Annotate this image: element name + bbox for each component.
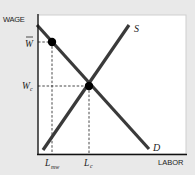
labor-market-chart: WAGE LABOR S D W W c L mw L c [0,0,195,175]
l-mw-label: L [44,158,50,168]
w-bar-label: W [25,39,34,49]
w-c-subscript: c [30,86,33,92]
l-c-subscript: c [90,163,93,169]
equilibrium-point [85,82,93,90]
demand-label: D [152,142,161,153]
l-c-label: L [83,158,89,168]
supply-label: S [134,23,139,34]
l-mw-subscript: mw [51,164,59,170]
y-axis-label: WAGE [3,15,25,24]
minimum-wage-point [48,38,56,46]
plot-area [38,15,186,154]
x-axis-label: LABOR [158,158,184,167]
